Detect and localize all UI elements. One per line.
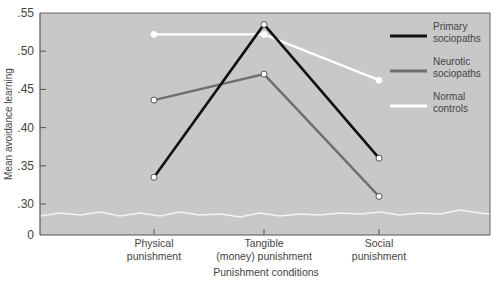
data-point [376,155,382,161]
legend-label: sociopaths [433,33,481,44]
legend-label: Normal [433,91,465,102]
y-axis-label: Mean avoidance learning [3,68,14,180]
y-tick-label: .40 [17,121,34,135]
x-axis-label: Punishment conditions [213,266,319,278]
x-tick-label: punishment [352,250,406,262]
y-tick-label: .55 [17,6,34,20]
data-point [376,193,382,199]
legend-label: Neurotic [433,56,470,67]
data-point [151,97,157,103]
x-tick-label: (money) punishment [216,250,312,262]
y-tick-label: 0 [27,228,34,242]
plot-area [40,13,490,235]
y-tick-label: .50 [17,44,34,58]
data-point [151,174,157,180]
line-chart: .55.50.45.40.35.300 PhysicalpunishmentTa… [0,0,494,283]
y-tick-label: .30 [17,197,34,211]
legend-label: controls [433,103,468,114]
x-tick-label: punishment [127,250,181,262]
y-tick-label: .45 [17,82,34,96]
data-point [151,31,157,37]
x-tick-label: Social [365,237,394,249]
legend-label: Primary [433,21,467,32]
x-tick-label: Tangible [244,237,283,249]
y-tick-label: .35 [17,159,34,173]
data-point [261,21,267,27]
data-point [376,77,382,83]
data-point [261,31,267,37]
x-tick-label: Physical [134,237,173,249]
legend-label: sociopaths [433,68,481,79]
data-point [261,71,267,77]
